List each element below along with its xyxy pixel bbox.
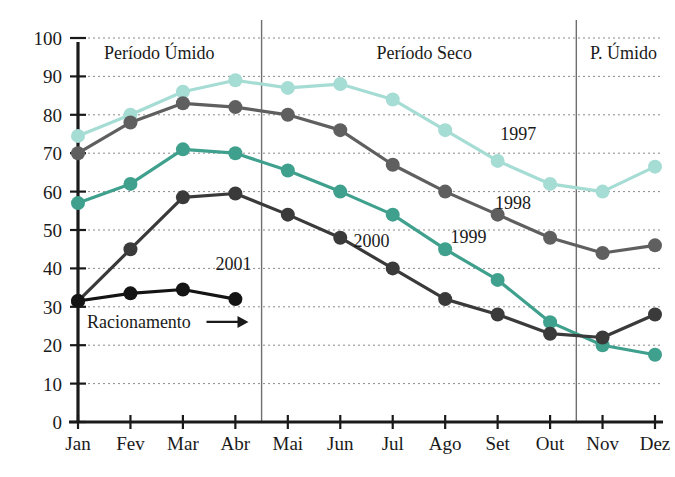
x-axis-tick-label: Nov — [586, 433, 619, 454]
period-region-label: P. Úmido — [590, 42, 657, 63]
period-region-label: Período Úmido — [104, 42, 215, 63]
y-axis-tick-label: 30 — [43, 297, 62, 318]
data-point-marker — [333, 231, 347, 245]
series-1997 — [71, 73, 662, 198]
line-chart: 0102030405060708090100 JanFevMarAbrMaiJu… — [0, 0, 675, 477]
data-point-marker — [648, 160, 662, 174]
series-label-1998: 1998 — [495, 193, 531, 213]
data-point-marker — [543, 177, 557, 191]
x-axis-tick-label: Abr — [221, 433, 251, 454]
data-point-marker — [333, 77, 347, 91]
x-axis-tick-label: Mar — [167, 433, 199, 454]
annotation-text: Racionamento — [87, 312, 191, 332]
data-point-marker — [71, 129, 85, 143]
annotations-group: Racionamento — [87, 312, 249, 332]
series-2001 — [71, 283, 242, 309]
x-axis-tick-label: Ago — [429, 433, 462, 454]
y-axis-labels: 0102030405060708090100 — [34, 28, 63, 433]
data-point-marker — [491, 307, 505, 321]
data-point-marker — [228, 146, 242, 160]
series-line — [78, 80, 655, 191]
data-point-marker — [71, 146, 85, 160]
data-point-marker — [438, 123, 452, 137]
x-axis-tick-label: Mai — [273, 433, 304, 454]
series-line — [78, 290, 235, 302]
y-axis-tick-label: 100 — [34, 28, 63, 49]
y-axis-tick-label: 70 — [43, 143, 62, 164]
data-point-marker — [543, 231, 557, 245]
annotation-arrow-head — [237, 316, 248, 328]
data-point-marker — [71, 294, 85, 308]
data-point-marker — [438, 185, 452, 199]
data-point-marker — [648, 348, 662, 362]
series-label-1997: 1997 — [500, 124, 536, 144]
data-point-marker — [648, 238, 662, 252]
data-point-marker — [491, 154, 505, 168]
period-dividers — [262, 20, 577, 422]
data-point-marker — [596, 185, 610, 199]
x-axis-tick-label: Set — [485, 433, 510, 454]
data-point-marker — [543, 327, 557, 341]
data-point-marker — [123, 242, 137, 256]
x-axis-tick-label: Fev — [116, 433, 145, 454]
period-labels: Período ÚmidoPeríodo SecoP. Úmido — [104, 42, 657, 63]
data-point-marker — [281, 163, 295, 177]
data-point-marker — [123, 177, 137, 191]
period-region-label: Período Seco — [376, 43, 471, 63]
data-point-marker — [123, 286, 137, 300]
data-point-marker — [386, 158, 400, 172]
series-label-2000: 2000 — [353, 231, 389, 251]
series-label-2001: 2001 — [215, 254, 251, 274]
data-point-marker — [648, 307, 662, 321]
data-point-marker — [281, 81, 295, 95]
data-point-marker — [386, 261, 400, 275]
data-point-marker — [228, 187, 242, 201]
y-axis-tick-label: 80 — [43, 105, 62, 126]
chart-container: 0102030405060708090100 JanFevMarAbrMaiJu… — [0, 0, 675, 477]
data-point-marker — [386, 92, 400, 106]
y-axis-tick-label: 10 — [43, 374, 62, 395]
y-axis-tick-label: 40 — [43, 258, 62, 279]
x-axis-labels: JanFevMarAbrMaiJunJulAgoSetOutNovDez — [65, 433, 670, 454]
data-point-marker — [596, 331, 610, 345]
data-point-marker — [386, 208, 400, 222]
data-point-marker — [228, 73, 242, 87]
x-axis-tick-label: Dez — [640, 433, 671, 454]
x-axis-tick-label: Jan — [65, 433, 91, 454]
data-point-marker — [333, 123, 347, 137]
data-point-marker — [228, 292, 242, 306]
series-label-1999: 1999 — [450, 227, 486, 247]
x-axis-tick-label: Jun — [327, 433, 354, 454]
y-axis-tick-label: 50 — [43, 220, 62, 241]
data-point-marker — [333, 185, 347, 199]
x-axis-tick-label: Jul — [382, 433, 404, 454]
data-point-marker — [438, 292, 452, 306]
data-point-marker — [228, 100, 242, 114]
data-point-marker — [491, 273, 505, 287]
data-point-marker — [176, 142, 190, 156]
y-axis-tick-label: 20 — [43, 335, 62, 356]
data-point-marker — [596, 246, 610, 260]
y-axis-tick-label: 90 — [43, 66, 62, 87]
series-labels: 19971998199920002001 — [215, 124, 536, 275]
data-point-marker — [176, 283, 190, 297]
data-point-marker — [281, 208, 295, 222]
data-point-marker — [123, 115, 137, 129]
data-point-marker — [281, 108, 295, 122]
data-point-marker — [71, 196, 85, 210]
y-axis-tick-label: 60 — [43, 182, 62, 203]
y-axis-tick-label: 0 — [53, 412, 63, 433]
data-point-marker — [176, 190, 190, 204]
x-axis-tick-label: Out — [536, 433, 565, 454]
data-point-marker — [176, 96, 190, 110]
